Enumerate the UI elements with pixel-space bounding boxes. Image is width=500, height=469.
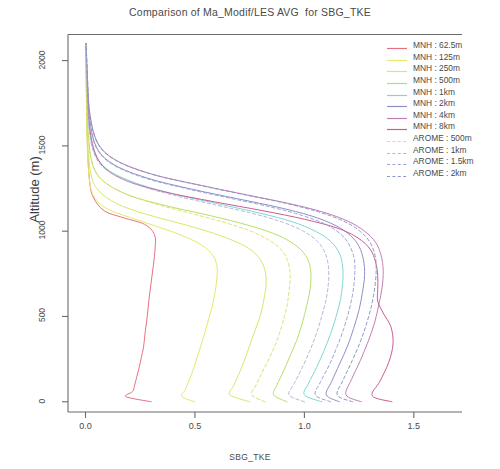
series-line <box>86 44 290 402</box>
series-line <box>86 44 217 402</box>
series-line <box>86 44 311 402</box>
x-tick-label: 0.0 <box>66 421 106 431</box>
legend-item: AROME : 1km <box>386 144 498 156</box>
legend-item: AROME : 2km <box>386 168 498 180</box>
legend-swatch <box>386 40 408 51</box>
legend-label: MNH : 125m <box>413 52 460 63</box>
chart-legend: MNH : 62.5mMNH : 125mMNH : 250mMNH : 500… <box>386 40 498 179</box>
legend-label: MNH : 500m <box>413 75 460 86</box>
legend-swatch <box>386 121 408 132</box>
legend-swatch <box>386 156 408 167</box>
chart-figure: Comparison of Ma_Modif/LES AVG for SBG_T… <box>0 0 500 469</box>
legend-label: MNH : 62.5m <box>413 40 462 51</box>
legend-item: MNH : 62.5m <box>386 40 498 52</box>
x-tick-label: 0.5 <box>175 421 215 431</box>
x-tick-label: 1.5 <box>394 421 434 431</box>
series-line <box>86 44 383 402</box>
legend-item: MNH : 1km <box>386 86 498 98</box>
legend-swatch <box>386 133 408 144</box>
legend-swatch <box>386 145 408 156</box>
legend-item: AROME : 500m <box>386 133 498 145</box>
x-tick-label: 1.0 <box>284 421 324 431</box>
y-tick-label: 1500 <box>37 125 47 165</box>
legend-label: AROME : 2km <box>413 168 467 179</box>
y-tick-label: 500 <box>37 295 47 335</box>
legend-item: MNH : 125m <box>386 52 498 64</box>
legend-label: MNH : 4km <box>413 110 455 121</box>
legend-swatch <box>386 110 408 121</box>
legend-label: MNH : 1km <box>413 87 455 98</box>
legend-swatch <box>386 63 408 74</box>
y-tick-label: 0 <box>37 381 47 421</box>
legend-item: MNH : 2km <box>386 98 498 110</box>
legend-label: MNH : 8km <box>413 121 455 132</box>
series-line <box>86 44 329 402</box>
legend-item: AROME : 1.5km <box>386 156 498 168</box>
legend-label: AROME : 1km <box>413 145 467 156</box>
legend-swatch <box>386 52 408 63</box>
legend-label: AROME : 500m <box>413 133 472 144</box>
legend-label: MNH : 2km <box>413 98 455 109</box>
legend-item: MNH : 500m <box>386 75 498 87</box>
series-line <box>86 44 343 402</box>
legend-label: MNH : 250m <box>413 63 460 74</box>
legend-swatch <box>386 75 408 86</box>
y-tick-label: 2000 <box>37 40 47 80</box>
legend-item: MNH : 250m <box>386 63 498 75</box>
legend-swatch <box>386 168 408 179</box>
legend-swatch <box>386 98 408 109</box>
series-line <box>86 44 355 402</box>
legend-item: MNH : 8km <box>386 121 498 133</box>
legend-swatch <box>386 87 408 98</box>
series-line <box>86 44 376 402</box>
legend-label: AROME : 1.5km <box>413 156 474 167</box>
legend-item: MNH : 4km <box>386 110 498 122</box>
y-tick-label: 1000 <box>37 210 47 250</box>
